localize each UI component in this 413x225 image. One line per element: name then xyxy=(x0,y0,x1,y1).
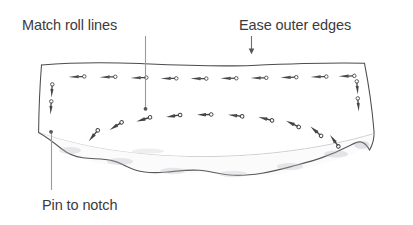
leader-match-roll-lines xyxy=(144,36,148,111)
annotation-label-match-roll-lines: Match roll lines xyxy=(22,18,117,33)
annotation-label-ease-outer-edges: Ease outer edges xyxy=(239,18,351,33)
ruffle-body xyxy=(39,133,374,176)
pin-row-arc xyxy=(87,113,341,149)
annotation-label-pin-to-notch: Pin to notch xyxy=(42,198,117,213)
panel-top-edge xyxy=(42,63,365,66)
leader-ease-outer-edges xyxy=(249,36,255,54)
pinning-diagram xyxy=(0,0,413,225)
pin-row-left-edge xyxy=(49,83,55,115)
pin-row-right-edge xyxy=(355,80,361,112)
panel-left-edge xyxy=(39,65,42,133)
pin-row-top xyxy=(68,74,356,80)
